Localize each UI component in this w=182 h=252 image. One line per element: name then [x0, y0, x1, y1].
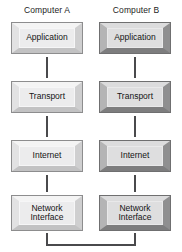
protocol-stack-diagram: Computer A Computer B Application Transp…: [0, 0, 182, 252]
layer-label: Application: [19, 33, 75, 43]
layer-label: Network Interface: [19, 204, 75, 223]
column-header-computer-a: Computer A: [7, 5, 87, 15]
layer-label: Network Interface: [107, 204, 163, 223]
connector-line-app-transport-a: [46, 57, 48, 78]
layer-label: Transport: [19, 92, 75, 102]
column-header-computer-b: Computer B: [96, 5, 176, 15]
layer-box-network-interface-b: Network Interface: [100, 196, 170, 230]
layer-label: Application: [107, 33, 163, 43]
connector-line-transport-internet-b: [134, 116, 136, 137]
layer-label: Transport: [107, 92, 163, 102]
connector-line-internet-netif-b: [134, 175, 136, 192]
connector-line-app-transport-b: [134, 57, 136, 78]
layer-box-transport-a: Transport: [12, 82, 82, 112]
layer-box-transport-b: Transport: [100, 82, 170, 112]
layer-box-internet-a: Internet: [12, 141, 82, 171]
network-link-base: [46, 244, 136, 246]
layer-label: Internet: [107, 151, 163, 161]
layer-label: Internet: [19, 151, 75, 161]
connector-line-transport-internet-a: [46, 116, 48, 137]
layer-box-application-a: Application: [12, 23, 82, 53]
connector-line-internet-netif-a: [46, 175, 48, 192]
layer-box-internet-b: Internet: [100, 141, 170, 171]
layer-box-application-b: Application: [100, 23, 170, 53]
layer-box-network-interface-a: Network Interface: [12, 196, 82, 230]
